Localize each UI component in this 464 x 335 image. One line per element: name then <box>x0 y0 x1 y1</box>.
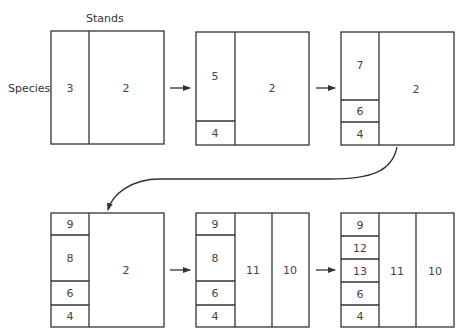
cell-label: 5 <box>212 70 219 83</box>
cell-label: 2 <box>269 82 276 95</box>
stage-2-matrix: 5 4 2 <box>196 32 309 145</box>
stage-5-matrix: 9 8 6 4 11 10 <box>196 213 309 327</box>
cell-label: 10 <box>283 264 297 277</box>
stage-1-matrix: 3 2 <box>51 31 164 144</box>
cell-label: 7 <box>357 59 364 72</box>
cell-label: 9 <box>67 218 74 231</box>
cell-label: 2 <box>413 83 420 96</box>
stage-3-matrix: 7 6 4 2 <box>341 32 454 145</box>
cell-label: 2 <box>123 264 130 277</box>
matrix-partition-diagram: Stands Species 3 2 5 4 2 7 6 4 2 <box>0 0 464 335</box>
cell-label: 2 <box>123 82 130 95</box>
cell-label: 4 <box>357 128 364 141</box>
cell-label: 3 <box>67 82 74 95</box>
curved-arrow-icon <box>108 147 397 210</box>
cell-label: 4 <box>212 310 219 323</box>
cell-label: 10 <box>428 265 442 278</box>
cell-label: 6 <box>357 105 364 118</box>
stands-label: Stands <box>86 12 124 25</box>
cell-label: 6 <box>212 287 219 300</box>
cell-label: 11 <box>390 265 404 278</box>
cell-label: 11 <box>246 264 260 277</box>
cell-label: 8 <box>67 252 74 265</box>
species-label: Species <box>8 82 51 95</box>
cell-label: 12 <box>353 242 367 255</box>
cell-label: 6 <box>67 287 74 300</box>
cell-label: 4 <box>212 127 219 140</box>
stage-4-matrix: 9 8 6 4 2 <box>51 213 164 327</box>
cell-label: 4 <box>357 310 364 323</box>
cell-label: 13 <box>353 265 367 278</box>
cell-label: 9 <box>212 218 219 231</box>
cell-label: 6 <box>357 288 364 301</box>
stage-6-matrix: 9 12 13 6 4 11 10 <box>341 213 454 327</box>
cell-label: 8 <box>212 252 219 265</box>
cell-label: 4 <box>67 310 74 323</box>
cell-label: 9 <box>357 219 364 232</box>
